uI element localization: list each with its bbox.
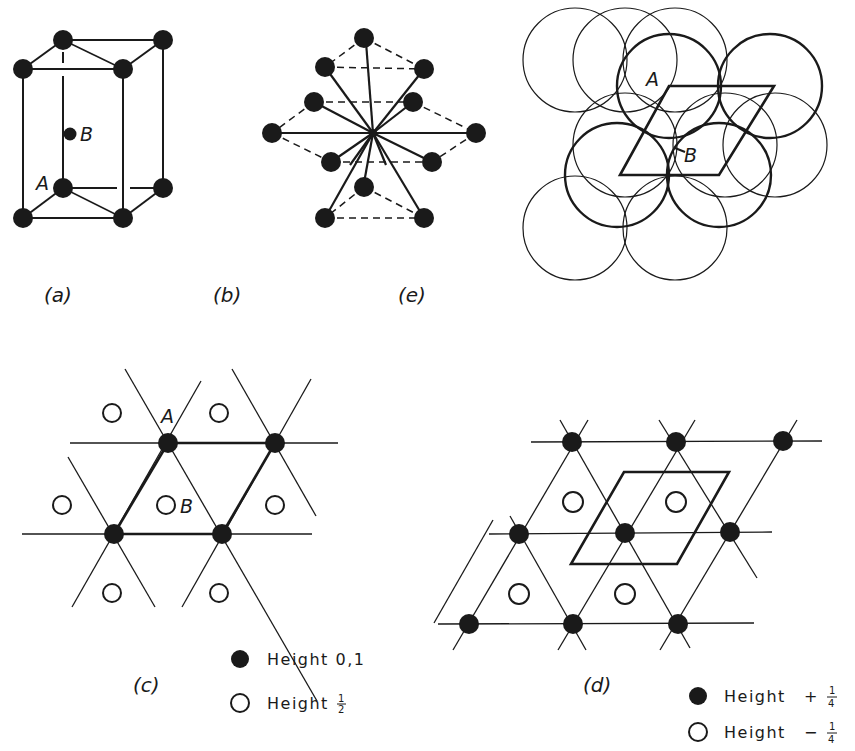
legend-d-open-frac-den: 4 <box>828 734 834 745</box>
caption-panel-d: (d) <box>583 673 611 697</box>
legend-c-open-frac-num: 1 <box>338 693 344 704</box>
panel-b-neighbours <box>272 38 476 218</box>
legend-d-filled-sign: + <box>804 687 819 706</box>
legend-c-open-label: Height <box>267 694 329 713</box>
legend-c-open-frac-den: 2 <box>338 704 344 715</box>
panel-a-label-a: A <box>34 172 49 194</box>
panel-c-label-b: B <box>180 495 193 517</box>
legend-d-filled-frac-den: 4 <box>828 698 834 709</box>
legend-d-open-frac-num: 1 <box>829 721 835 732</box>
caption-panel-a: (a) <box>44 283 72 307</box>
panel-a-label-b: B <box>80 123 93 145</box>
legend-panel-d: Height + 1 4 Height − 1 4 <box>689 685 837 745</box>
legend-d-open-label: Height <box>724 723 786 742</box>
panel-e-sphere-packing <box>523 8 827 280</box>
legend-d-open-sign: − <box>804 723 819 742</box>
legend-d-filled-frac-num: 1 <box>829 685 835 696</box>
panel-e-label-a: A <box>644 68 659 90</box>
hcp-structure-figure: B A <box>0 0 855 751</box>
panel-d-unit-cell <box>571 472 729 564</box>
caption-panel-e: (e) <box>398 283 426 307</box>
panel-c-label-a: A <box>159 405 174 427</box>
panel-e-label-b: B <box>684 144 697 166</box>
legend-panel-c: Height 0,1 Height 1 2 <box>231 650 365 715</box>
legend-c-filled-label: Height 0,1 <box>267 650 365 669</box>
panel-b-atoms <box>262 28 486 228</box>
legend-d-filled-label: Height <box>724 687 786 706</box>
caption-panel-b: (b) <box>213 283 241 307</box>
caption-panel-c: (c) <box>133 673 160 697</box>
